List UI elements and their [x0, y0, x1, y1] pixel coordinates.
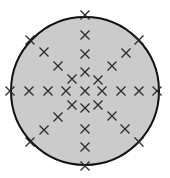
circle-diagram: [0, 0, 170, 178]
diagram-canvas: [0, 0, 170, 178]
